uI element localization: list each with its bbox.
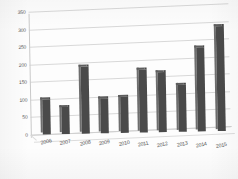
x-axis-tick-labels: 2006200720082009201020112012201320142015 bbox=[31, 135, 238, 169]
x-axis-tick-label: 2008 bbox=[79, 138, 91, 146]
y-axis-tick-label: 300 bbox=[18, 26, 26, 32]
x-axis-tick-label: 2013 bbox=[176, 140, 188, 148]
bar-front-face bbox=[215, 26, 225, 132]
bar bbox=[120, 97, 129, 133]
x-axis-tick-label: 2012 bbox=[157, 140, 169, 148]
bar-front-face bbox=[120, 97, 129, 133]
bar bbox=[62, 107, 71, 135]
bar-front-face bbox=[42, 99, 51, 134]
chart-plot-area: 050100150200250300350 200620072008200920… bbox=[0, 0, 238, 179]
bar-front-face bbox=[100, 98, 109, 133]
y-axis-tick-label: 250 bbox=[18, 44, 26, 50]
bar bbox=[139, 70, 148, 133]
bar-front-face bbox=[178, 84, 187, 132]
bar bbox=[196, 47, 206, 131]
bar-chart: 050100150200250300350 200620072008200920… bbox=[0, 0, 238, 179]
x-axis-tick-label: 2015 bbox=[215, 141, 227, 149]
y-axis-tick-label: 350 bbox=[18, 9, 26, 15]
bar-front-face bbox=[196, 47, 206, 131]
bar bbox=[80, 67, 89, 134]
y-axis-tick-label: 150 bbox=[19, 79, 27, 85]
y-axis-tick-label: 100 bbox=[19, 97, 27, 103]
y-axis-tick-label: 200 bbox=[19, 61, 27, 67]
x-axis-tick-label: 2014 bbox=[195, 140, 207, 148]
x-axis-tick-label: 2007 bbox=[59, 138, 71, 146]
bar-front-face bbox=[158, 72, 167, 133]
x-axis-tick-label: 2006 bbox=[40, 137, 52, 145]
bar-series bbox=[28, 8, 232, 139]
bar bbox=[215, 26, 225, 132]
x-axis-tick-label: 2011 bbox=[137, 139, 149, 147]
bar bbox=[178, 84, 187, 132]
x-axis-tick-label: 2009 bbox=[98, 138, 110, 146]
bar-front-face bbox=[139, 70, 148, 133]
x-axis-tick-label: 2010 bbox=[118, 139, 130, 147]
plot-region: 050100150200250300350 bbox=[28, 8, 232, 139]
bar bbox=[158, 72, 167, 133]
y-axis-tick-label: 0 bbox=[25, 132, 28, 138]
bar bbox=[100, 98, 109, 133]
y-axis-tick-label: 50 bbox=[22, 114, 27, 120]
bar-front-face bbox=[62, 107, 71, 135]
bar-front-face bbox=[80, 67, 89, 134]
bar bbox=[42, 99, 51, 134]
